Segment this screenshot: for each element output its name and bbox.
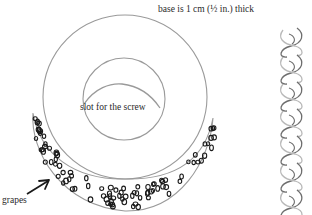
braid-strand: [281, 190, 302, 215]
braid-loop: [289, 169, 294, 179]
grape: [42, 134, 45, 138]
braid: [281, 28, 302, 215]
diagram-canvas: [0, 0, 312, 215]
braid-loop: [289, 34, 294, 44]
slot-label: slot for the screw: [80, 103, 146, 113]
braid-loop: [289, 61, 294, 71]
braid-loop: [289, 196, 294, 206]
grape: [210, 145, 214, 151]
braid-loop: [289, 88, 294, 98]
braid-loop: [289, 142, 294, 152]
grapes-label: grapes: [2, 196, 27, 206]
outer-ring: [43, 15, 207, 179]
braid-loop: [289, 115, 294, 125]
thickness-note: base is 1 cm (½ in.) thick: [158, 5, 254, 15]
arrow-icon: [27, 180, 49, 194]
